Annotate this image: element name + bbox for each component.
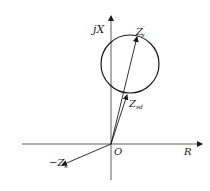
neg-zk-vector xyxy=(62,144,111,165)
zsd-label: Zsd xyxy=(128,98,143,110)
r-axis-label: R xyxy=(183,146,192,157)
zs-prime-label: Z′s xyxy=(135,25,145,38)
origin-label: O xyxy=(114,146,122,157)
zsd-vector xyxy=(111,95,127,144)
jx-axis-label: jX xyxy=(90,23,105,36)
neg-zk-label: −Zk xyxy=(49,157,68,169)
impedance-diagram: jX Z′s Zsd −Zk O R xyxy=(0,0,210,191)
zs-prime-vector xyxy=(111,37,137,144)
